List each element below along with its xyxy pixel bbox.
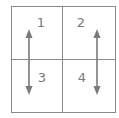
cell-label-2: 2 — [75, 16, 87, 29]
double-arrow-icon-right — [91, 28, 103, 96]
cell-label-4: 4 — [76, 71, 88, 84]
double-arrow-icon-left — [23, 28, 35, 96]
quadrant-diagram: 1 2 3 4 — [0, 0, 119, 118]
cell-label-1: 1 — [35, 16, 47, 29]
cell-label-3: 3 — [36, 71, 48, 84]
